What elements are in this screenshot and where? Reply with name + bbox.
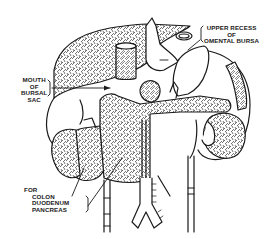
- stomach-shape: [173, 46, 209, 96]
- right-kidney: [52, 129, 80, 177]
- label-upper-recess-of-omental-bursa: UPPER RECESS OF OMENTAL BURSA: [204, 25, 259, 45]
- bracket-for: [86, 196, 88, 212]
- aorta: [132, 178, 162, 228]
- bracket-mouth: [48, 80, 50, 96]
- label-line: SAC: [21, 97, 47, 104]
- label-mouth-of-bursal-sac: MOUTH OF BURSAL SAC: [21, 77, 47, 103]
- label-line: PANCREAS: [24, 207, 69, 214]
- label-for-colon-duodenum-pancreas: FOR COLON DUODENUM PANCREAS: [24, 187, 69, 213]
- label-line: OMENTAL BURSA: [204, 38, 259, 45]
- ureter-right: [104, 180, 110, 232]
- anatomical-diagram: UPPER RECESS OF OMENTAL BURSA MOUTH OF B…: [0, 0, 271, 239]
- bracket-upper-recess: [201, 26, 203, 42]
